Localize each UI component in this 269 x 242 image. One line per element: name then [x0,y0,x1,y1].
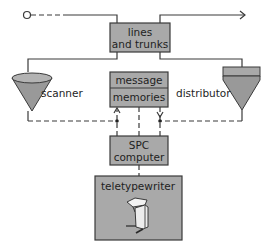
spc-label: SPC [129,139,149,151]
input-line [66,15,117,23]
input-terminal-icon [24,12,31,19]
spc-computer-box: SPC computer [110,136,168,165]
output-line [160,15,245,23]
scanner-label: scanner [41,87,83,99]
lines-and-trunks-label-2: and trunks [112,38,168,50]
message-memories-box: message memories [110,72,168,107]
lines-to-scanner-line [28,52,117,72]
computer-label: computer [114,151,165,163]
teletypewriter-label: teletypewriter [101,180,176,192]
switching-system-diagram: lines and trunks scanner distributor mes… [0,0,269,242]
lines-and-trunks-label-1: lines [128,26,152,38]
down-arrow-icon [157,112,163,117]
memories-label: memories [113,91,166,103]
lines-to-distributor-line [160,52,242,67]
teletypewriter-box: teletypewriter [95,176,182,240]
lines-and-trunks-box: lines and trunks [110,23,170,52]
message-label: message [115,74,162,86]
distributor-label: distributor [176,87,231,99]
